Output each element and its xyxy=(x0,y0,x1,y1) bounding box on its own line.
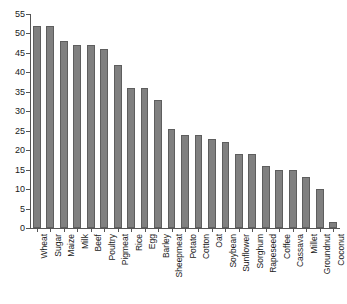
y-axis-tick-mark xyxy=(26,14,30,15)
bar[interactable] xyxy=(33,26,41,228)
x-axis-tick-mark xyxy=(306,229,307,232)
bar-slot[interactable] xyxy=(248,14,256,228)
x-axis-tick-mark xyxy=(131,229,132,232)
bar-slot[interactable] xyxy=(73,14,81,228)
bar-slot[interactable] xyxy=(329,14,337,228)
y-axis-tick-label: 45 xyxy=(15,48,25,57)
bar-slot[interactable] xyxy=(208,14,216,228)
bar-slot[interactable] xyxy=(33,14,41,228)
x-axis-tick-mark xyxy=(198,229,199,232)
x-axis-tick-mark xyxy=(77,229,78,232)
x-axis-tick-mark xyxy=(225,229,226,232)
x-axis-tick-label: Maize xyxy=(67,234,76,257)
x-axis-tick-label: Wheat xyxy=(40,234,49,259)
bar-slot[interactable] xyxy=(60,14,68,228)
bar-slot[interactable] xyxy=(289,14,297,228)
bar[interactable] xyxy=(87,45,95,228)
y-axis-tick-mark xyxy=(26,189,30,190)
bar[interactable] xyxy=(127,88,135,228)
bar[interactable] xyxy=(262,166,270,228)
x-axis-tick-mark xyxy=(293,229,294,232)
x-axis-tick-label: Beef xyxy=(94,234,103,252)
x-axis-tick-label: Pigmeat xyxy=(121,234,130,265)
bar[interactable] xyxy=(154,100,162,228)
bar[interactable] xyxy=(235,154,243,228)
x-axis-tick-mark xyxy=(252,229,253,232)
bar-slot[interactable] xyxy=(195,14,203,228)
bar[interactable] xyxy=(316,189,324,228)
bar[interactable] xyxy=(168,129,176,228)
x-axis-tick-label: Milk xyxy=(81,234,90,249)
bar[interactable] xyxy=(60,41,68,228)
x-axis-tick-mark xyxy=(333,229,334,232)
y-axis-tick-label: 20 xyxy=(15,146,25,155)
y-axis-tick-label: 30 xyxy=(15,107,25,116)
bar[interactable] xyxy=(73,45,81,228)
x-axis-tick-mark xyxy=(50,229,51,232)
bar-slot[interactable] xyxy=(87,14,95,228)
x-axis-tick-label: Poultry xyxy=(108,234,117,260)
bar-slot[interactable] xyxy=(46,14,54,228)
x-axis-tick-label: Rice xyxy=(135,234,144,251)
x-axis-tick-label: Coffee xyxy=(283,234,292,259)
x-axis-tick-mark xyxy=(64,229,65,232)
bar[interactable] xyxy=(275,170,283,228)
bar-slot[interactable] xyxy=(154,14,162,228)
bar-slot[interactable] xyxy=(222,14,230,228)
x-axis-tick-mark xyxy=(212,229,213,232)
y-axis-tick-label: 35 xyxy=(15,87,25,96)
y-axis-tick-label: 55 xyxy=(15,10,25,19)
x-axis-tick-mark xyxy=(279,229,280,232)
bar[interactable] xyxy=(114,65,122,228)
y-axis-tick-mark xyxy=(26,111,30,112)
x-axis-tick-mark xyxy=(266,229,267,232)
x-axis-tick-label: Sheepmeat xyxy=(175,234,184,277)
bar[interactable] xyxy=(100,49,108,228)
bar-slot[interactable] xyxy=(235,14,243,228)
x-axis-tick-mark xyxy=(172,229,173,232)
bar-slot[interactable] xyxy=(262,14,270,228)
bar[interactable] xyxy=(248,154,256,228)
bar[interactable] xyxy=(289,170,297,228)
x-axis-tick-label: Millet xyxy=(310,234,319,254)
bar[interactable] xyxy=(302,177,310,228)
bar-slot[interactable] xyxy=(302,14,310,228)
x-axis-tick-label: Sunflower xyxy=(242,234,251,272)
y-axis-tick-mark xyxy=(26,209,30,210)
x-axis-tick-mark xyxy=(185,229,186,232)
x-axis-tick-mark xyxy=(104,229,105,232)
bar[interactable] xyxy=(222,142,230,228)
x-axis-tick-mark xyxy=(239,229,240,232)
x-axis-tick-label: Barley xyxy=(162,234,171,258)
y-axis-tick-mark xyxy=(26,92,30,93)
bar[interactable] xyxy=(208,139,216,228)
y-axis-tick-mark xyxy=(26,228,30,229)
bar-slot[interactable] xyxy=(181,14,189,228)
bar[interactable] xyxy=(329,222,337,228)
bar-slot[interactable] xyxy=(141,14,149,228)
x-axis-tick-mark xyxy=(118,229,119,232)
y-axis-tick-label: 10 xyxy=(15,185,25,194)
x-axis-tick-label: Oat xyxy=(215,234,224,248)
bar-slot[interactable] xyxy=(316,14,324,228)
x-axis-tick-mark xyxy=(145,229,146,232)
x-axis-tick-mark xyxy=(320,229,321,232)
x-axis-tick-label: Cassava xyxy=(296,234,305,267)
y-axis-tick-label: 0 xyxy=(20,224,25,233)
y-axis-tick-mark xyxy=(26,150,30,151)
x-axis-tick-mark xyxy=(37,229,38,232)
bar[interactable] xyxy=(46,26,54,228)
bar-slot[interactable] xyxy=(127,14,135,228)
y-axis-tick-mark xyxy=(26,131,30,132)
bar-slot[interactable] xyxy=(275,14,283,228)
bar[interactable] xyxy=(195,135,203,228)
y-axis-tick-label: 5 xyxy=(20,204,25,213)
bar[interactable] xyxy=(181,135,189,228)
bar-slot[interactable] xyxy=(168,14,176,228)
bar[interactable] xyxy=(141,88,149,228)
y-axis-tick-label: 15 xyxy=(15,165,25,174)
bar-slot[interactable] xyxy=(100,14,108,228)
y-axis-tick-mark xyxy=(26,72,30,73)
x-axis-tick-label: Coconut xyxy=(337,234,346,266)
bar-slot[interactable] xyxy=(114,14,122,228)
